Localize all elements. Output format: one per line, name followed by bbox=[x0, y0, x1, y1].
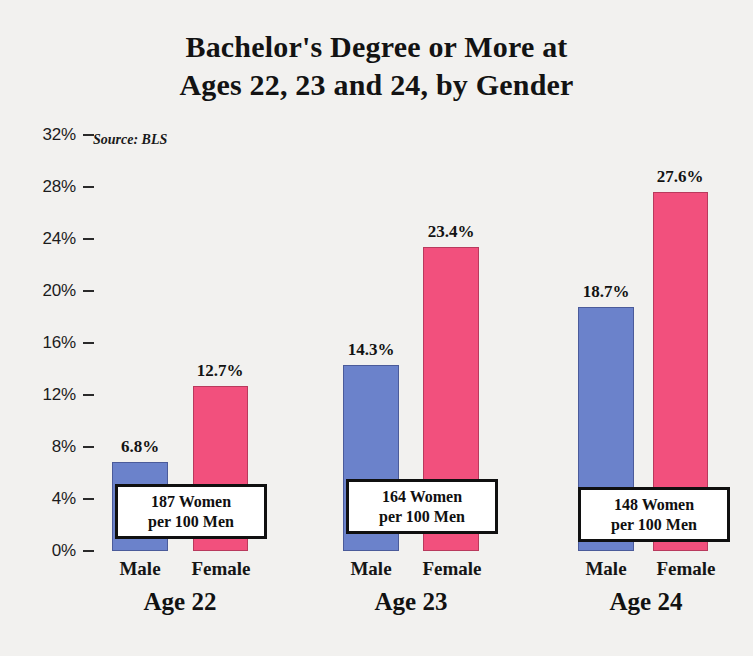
x-group-label-age-23: Age 23 bbox=[341, 588, 481, 616]
callout-line-2: per 100 Men bbox=[148, 512, 234, 532]
x-group-label-age-22: Age 22 bbox=[110, 588, 250, 616]
bar-value-male-age-24: 18.7% bbox=[558, 282, 654, 302]
x-group-label-age-24: Age 24 bbox=[576, 588, 716, 616]
bar-value-female-age-24: 27.6% bbox=[632, 167, 728, 187]
x-label-male-age-22: Male bbox=[100, 558, 180, 580]
bar-value-female-age-22: 12.7% bbox=[172, 361, 268, 381]
callout-line-2: per 100 Men bbox=[379, 507, 465, 527]
bar-value-female-age-23: 23.4% bbox=[403, 222, 499, 242]
x-label-female-age-23: Female bbox=[411, 558, 493, 580]
callout-line-2: per 100 Men bbox=[611, 515, 697, 535]
x-label-male-age-23: Male bbox=[331, 558, 411, 580]
callout-age-24: 148 Women per 100 Men bbox=[578, 487, 730, 542]
bar-value-male-age-22: 6.8% bbox=[92, 437, 188, 457]
x-label-male-age-24: Male bbox=[566, 558, 646, 580]
bar-value-male-age-23: 14.3% bbox=[323, 340, 419, 360]
x-label-female-age-22: Female bbox=[180, 558, 262, 580]
bar-chart: Bachelor's Degree or More at Ages 22, 23… bbox=[0, 0, 753, 656]
callout-age-23: 164 Women per 100 Men bbox=[346, 479, 498, 534]
callout-line-1: 187 Women bbox=[151, 492, 231, 512]
callout-line-1: 148 Women bbox=[614, 495, 694, 515]
x-label-female-age-24: Female bbox=[645, 558, 727, 580]
callout-age-22: 187 Women per 100 Men bbox=[115, 484, 267, 539]
callout-line-1: 164 Women bbox=[382, 487, 462, 507]
